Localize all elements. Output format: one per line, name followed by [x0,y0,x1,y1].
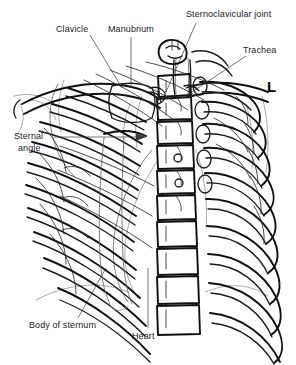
label-body-of-sternum: Body of sternum [29,320,96,331]
right-ribs [200,82,282,364]
label-heart: Heart [132,331,155,342]
label-trachea: Trachea [243,45,276,56]
label-sternal-angle-line1: Sternal [14,131,43,142]
chest-radiograph-figure: Clavicle Manubrium Sternoclavicular join… [0,0,296,365]
label-sternoclavicular-joint: Sternoclavicular joint [186,9,271,20]
label-leader-lines [54,23,246,328]
label-sternal-angle-line2: angle [18,143,41,154]
label-manubrium: Manubrium [108,24,154,35]
left-side-marker: L [267,78,276,95]
label-clavicle: Clavicle [56,24,88,35]
